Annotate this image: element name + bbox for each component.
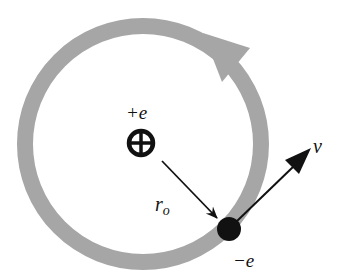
electron-charge-label: −e <box>233 250 254 271</box>
proton-charge-label: +e <box>126 102 147 123</box>
bohr-atom-diagram: +e ro −e v <box>0 0 342 271</box>
radius-arrow <box>162 161 217 218</box>
radius-label: ro <box>155 193 170 218</box>
proton-icon <box>129 131 153 155</box>
velocity-label: v <box>313 135 322 157</box>
